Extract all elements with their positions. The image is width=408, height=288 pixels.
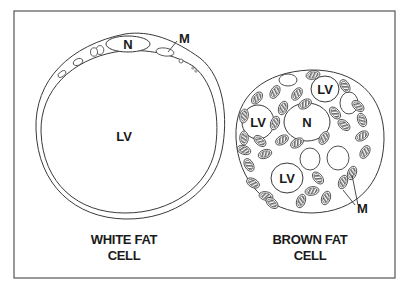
brown-cell-caption-line2: CELL [294,248,327,263]
brown-fat-cell: N LV LV LV M BROWN FAT CELL [236,70,384,263]
diagram-figure: N LV M WHITE FAT CELL [0,0,408,288]
brown-cell-lipid-vacuole-label-2: LV [317,82,333,97]
brown-cell-mitochondrion-label: M [357,201,368,216]
brown-cell-lipid-vacuole-label-3: LV [279,171,295,186]
white-cell-caption-line1: WHITE FAT [91,232,158,247]
white-fat-cell: N LV M WHITE FAT CELL [36,31,225,263]
brown-cell-lipid-vacuole-label-1: LV [250,115,266,130]
white-cell-caption-line2: CELL [108,248,141,263]
brown-cell-nucleus-label: N [302,115,311,130]
white-cell-mitochondrion-label: M [179,31,190,46]
brown-cell-caption-line1: BROWN FAT [272,232,347,247]
white-cell-nucleus-label: N [123,37,132,52]
white-cell-lipid-vacuole-label: LV [116,129,132,144]
